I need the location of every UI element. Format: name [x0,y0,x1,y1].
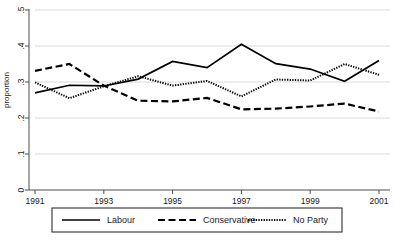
chart-container: 0.1.2.3.4.5199119931995199719992001propo… [0,0,394,240]
y-tick-label: 0 [16,187,26,192]
x-tick-label: 1995 [163,196,182,206]
x-tick-label: 1993 [94,196,113,206]
series-line-conservative [35,64,379,112]
y-tick-label: .4 [16,42,26,49]
y-tick-label: .3 [16,78,26,85]
x-tick-label: 1991 [26,196,45,206]
x-tick-label: 2001 [370,196,389,206]
legend-label-conservative: Conservative [203,215,256,225]
y-tick-label: .1 [16,150,26,157]
series-layer [35,44,379,111]
legend-label-labour: Labour [107,215,135,225]
series-line-no-party [35,64,379,98]
legend: LabourConservativeNo Party [52,208,342,232]
series-line-labour [35,44,379,93]
y-tick-label: .2 [16,114,26,121]
x-tick-label: 1999 [301,196,320,206]
y-axis-title: proportion [2,72,11,108]
x-tick-label: 1997 [232,196,251,206]
line-chart: 0.1.2.3.4.5199119931995199719992001propo… [0,0,394,240]
axes: 0.1.2.3.4.5199119931995199719992001propo… [2,6,390,206]
y-tick-label: .5 [16,6,26,13]
gridlines [35,10,390,154]
legend-label-no-party: No Party [293,215,329,225]
